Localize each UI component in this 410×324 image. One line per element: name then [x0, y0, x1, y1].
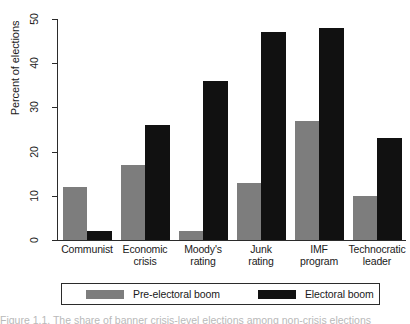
bar	[377, 138, 402, 240]
y-tick-label: 10	[28, 184, 40, 208]
bar-group	[121, 19, 170, 240]
bar	[121, 165, 146, 240]
y-tick-label: 50	[28, 7, 40, 31]
legend-item-pre-electoral-boom: Pre-electoral boom	[86, 284, 220, 304]
figure-caption: Figure 1.1. The share of banner crisis-l…	[0, 316, 410, 324]
legend-swatch-electoral-boom	[258, 290, 296, 299]
bar-group	[353, 19, 402, 240]
bar	[237, 183, 262, 240]
x-label-line: Technocratic	[338, 244, 410, 256]
chart-legend: Pre-electoral boom Electoral boom	[61, 283, 380, 305]
legend-swatch-pre-electoral-boom	[86, 290, 124, 299]
x-label-line: leader	[338, 256, 410, 268]
bar	[145, 125, 170, 240]
bar-group	[179, 19, 228, 240]
bar-group	[63, 19, 112, 240]
bar-group	[237, 19, 286, 240]
bar	[319, 28, 344, 240]
x-axis-line	[57, 240, 406, 241]
figure-caption-text: Figure 1.1. The share of banner crisis-l…	[0, 316, 410, 324]
bar	[63, 187, 88, 240]
bar	[203, 81, 228, 240]
bar	[87, 231, 112, 240]
bar	[353, 196, 378, 240]
bar-group	[295, 19, 344, 240]
bar	[295, 121, 320, 240]
bar-chart-figure: Percent of elections 01020304050 Communi…	[0, 0, 410, 324]
y-tick-label: 30	[28, 95, 40, 119]
y-tick-label: 20	[28, 140, 40, 164]
bar	[179, 231, 204, 240]
y-tick-label: 40	[28, 51, 40, 75]
y-tick-label: 0	[28, 228, 40, 252]
legend-label-pre-electoral-boom: Pre-electoral boom	[133, 288, 220, 300]
bar	[261, 32, 286, 240]
legend-label-electoral-boom: Electoral boom	[305, 288, 374, 300]
y-axis-title: Percent of elections	[9, 0, 25, 148]
y-tick-mark	[52, 240, 58, 241]
x-axis-label: Technocraticleader	[338, 244, 410, 267]
legend-item-electoral-boom: Electoral boom	[258, 284, 374, 304]
plot-area	[58, 19, 406, 240]
